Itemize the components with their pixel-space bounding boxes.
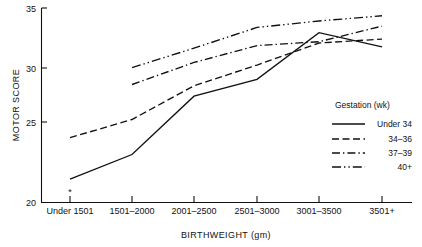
legend-title: Gestation (wk) [335,100,390,110]
legend-item-34-36[interactable]: 34–36 [332,134,412,144]
legend-label: Under 34 [377,119,412,129]
series-line-37-39 [132,26,382,84]
legend-label: 34–36 [388,134,412,144]
y-axis-title: MOTOR SCORE [11,69,21,141]
legend-item-37-39[interactable]: 37–39 [332,148,412,158]
legend: Gestation (wk) Under 34 34–36 37–39 40+ [332,100,412,172]
x-tick-label: 1501–2000 [109,206,154,216]
x-axis-title: BIRTHWEIGHT (gm) [181,230,271,240]
legend-label: 40+ [398,162,412,172]
x-axis-ticks [70,196,382,203]
x-tick-label: 3501+ [369,206,394,216]
y-tick-label: 35 [26,4,36,14]
legend-label: 37–39 [388,148,412,158]
y-axis-ticks [42,8,48,122]
motor-score-vs-birthweight-line-chart: MOTOR SCORE 35 30 25 20 Under 15 [0,0,422,247]
y-tick-label: 30 [26,64,36,74]
y-tick-label: 25 [26,118,36,128]
x-tick-label: 2001–2500 [171,206,216,216]
y-tick-label: 20 [26,198,36,208]
x-tick-label: 3001–3500 [296,206,341,216]
data-series-group [70,16,382,179]
legend-item-40-plus[interactable]: 40+ [332,162,412,172]
y-tick-labels: 35 30 25 20 [26,4,36,208]
chart-figure: MOTOR SCORE 35 30 25 20 Under 15 [0,0,422,247]
legend-item-under-34[interactable]: Under 34 [332,119,412,129]
x-tick-label: Under 1501 [46,206,93,216]
series-line-40 [132,16,382,68]
x-tick-label: 2501–3000 [234,206,279,216]
asterisk-marker: * [68,187,72,197]
x-tick-labels: Under 1501 1501–2000 2001–2500 2501–3000… [46,206,394,216]
